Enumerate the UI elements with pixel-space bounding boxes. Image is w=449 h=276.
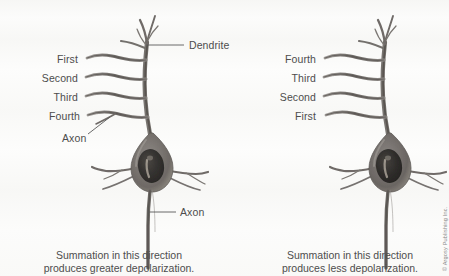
caption-left-line1: Summation in this direction bbox=[24, 249, 214, 262]
figure-root: Dendrite First Second Third Fourth Axon … bbox=[0, 0, 449, 276]
right-neuron-graphic bbox=[324, 16, 446, 268]
label-dendrite: Dendrite bbox=[189, 39, 230, 51]
label-left-first: First bbox=[0, 53, 78, 65]
leader-lines bbox=[88, 45, 184, 212]
left-neuron-graphic bbox=[86, 16, 208, 268]
label-left-third: Third bbox=[0, 91, 78, 103]
label-right-third: Third bbox=[238, 72, 316, 84]
label-right-fourth: Fourth bbox=[238, 53, 316, 65]
caption-right-line2: produces less depolarization. bbox=[255, 262, 445, 275]
caption-left-line2: produces greater depolarization. bbox=[24, 262, 214, 275]
label-right-first: First bbox=[238, 110, 316, 122]
label-left-second: Second bbox=[0, 72, 78, 84]
label-axon-outgoing: Axon bbox=[180, 206, 204, 218]
label-right-second: Second bbox=[232, 91, 316, 103]
label-left-fourth: Fourth bbox=[0, 110, 80, 122]
caption-right-line1: Summation in this direction bbox=[255, 249, 445, 262]
label-axon-incoming: Axon bbox=[62, 132, 86, 144]
leader-axon-incoming bbox=[88, 117, 110, 134]
publisher-credit: © Argosy Publishing Inc. bbox=[442, 207, 448, 272]
